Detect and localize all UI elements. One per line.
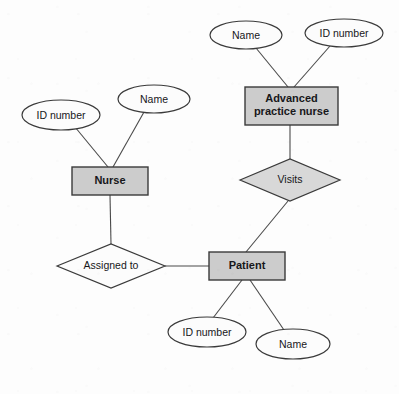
connector-apn-id-number — [294, 46, 330, 87]
attribute-ellipse-patient-id-number[interactable] — [168, 317, 246, 347]
connector-nurse-assigned-to — [110, 195, 111, 244]
attribute-ellipse-apn-name[interactable] — [210, 21, 282, 49]
connector-patient-name — [250, 280, 284, 330]
attribute-ellipse-patient-name[interactable] — [256, 329, 330, 359]
er-diagram-canvas: Nurse Advanced practice nurse Patient As… — [0, 0, 399, 394]
relationship-hitarea-assigned-to[interactable] — [57, 244, 165, 288]
entity-hitarea-nurse[interactable] — [72, 167, 148, 195]
connector-patient-id-number — [213, 280, 242, 318]
connector-visits-patient — [246, 201, 288, 252]
entity-hitarea-advanced-practice-nurse[interactable] — [245, 87, 338, 125]
relationship-hitarea-visits[interactable] — [240, 159, 340, 201]
attribute-ellipse-nurse-name[interactable] — [118, 85, 190, 113]
attribute-ellipse-nurse-id-number[interactable] — [22, 100, 100, 130]
connector-nurse-id-number — [75, 127, 108, 167]
entity-hitarea-patient[interactable] — [209, 252, 285, 280]
connector-apn-name — [256, 48, 288, 87]
attribute-ellipse-apn-id-number[interactable] — [305, 19, 383, 47]
connector-nurse-name — [113, 112, 144, 167]
